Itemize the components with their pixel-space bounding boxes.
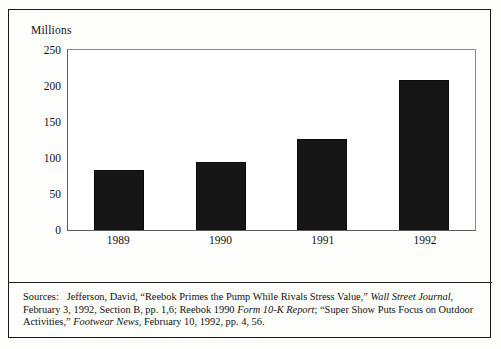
y-tick-250: 250 <box>44 44 61 56</box>
chart-page: Millions 250 200 150 100 50 0 <box>0 0 501 349</box>
bar-slot-1991 <box>272 50 374 230</box>
y-tick-100: 100 <box>44 152 61 164</box>
x-label-1990: 1990 <box>169 234 271 246</box>
bar-1990 <box>196 162 246 230</box>
bar-slot-1990 <box>170 50 272 230</box>
y-tick-50: 50 <box>50 188 62 200</box>
source-italic-wsj: Wall Street Journal <box>371 291 451 302</box>
x-label-1991: 1991 <box>272 234 374 246</box>
source-italic-footwear-news: Footwear News <box>73 316 139 327</box>
plot-area: 250 200 150 100 50 0 <box>67 49 476 231</box>
figure-frame: Millions 250 200 150 100 50 0 <box>8 9 491 338</box>
y-tick-0: 0 <box>55 224 61 236</box>
bar-slot-1992 <box>373 50 475 230</box>
source-lead: Sources: <box>23 291 59 302</box>
bar-1992 <box>399 80 449 230</box>
y-tick-200: 200 <box>44 80 61 92</box>
source-note: Sources: Jefferson, David, “Reebok Prime… <box>23 291 481 329</box>
source-italic-form10k: Form 10-K Report <box>237 304 314 315</box>
source-divider <box>9 282 492 283</box>
y-axis-unit-label: Millions <box>31 24 72 36</box>
x-label-1989: 1989 <box>67 234 169 246</box>
bar-chart: Millions 250 200 150 100 50 0 <box>9 10 492 282</box>
bar-slot-1989 <box>68 50 170 230</box>
bar-group <box>68 50 475 230</box>
bar-1989 <box>94 170 144 230</box>
x-axis-labels: 1989 1990 1991 1992 <box>67 234 476 246</box>
y-tick-150: 150 <box>44 116 61 128</box>
source-text-4: , February 10, 1992, pp. 4, 56. <box>139 316 265 327</box>
source-text-1: Jefferson, David, “Reebok Primes the Pum… <box>67 291 371 302</box>
bar-1991 <box>297 139 347 230</box>
x-label-1992: 1992 <box>374 234 476 246</box>
